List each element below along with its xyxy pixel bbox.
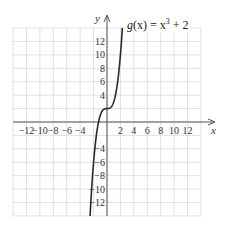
- y-tick-label: −6: [94, 157, 105, 168]
- function-rhs: = x3 + 2: [147, 18, 189, 32]
- function-rhs-tail: + 2: [170, 18, 189, 32]
- y-tick-label: −8: [94, 170, 105, 181]
- y-tick-label: 12: [95, 36, 105, 47]
- y-tick-label: 8: [100, 63, 105, 74]
- function-rhs-base: = x: [147, 18, 166, 32]
- x-tick-label: −10: [32, 125, 48, 136]
- x-tick-label: 2: [118, 125, 123, 136]
- function-label: g(x) = x3 + 2: [126, 17, 190, 33]
- x-tick-label: −8: [48, 125, 59, 136]
- axes: [13, 15, 215, 216]
- y-tick-label: 4: [100, 90, 105, 101]
- x-axis-label: x: [210, 124, 216, 136]
- x-tick-label: 12: [183, 125, 193, 136]
- x-tick-label: −6: [61, 125, 72, 136]
- x-tick-label: −4: [75, 125, 86, 136]
- y-tick-label: 10: [95, 49, 105, 60]
- function-graph: −12−10−8−6−4246810121210864−4−6−8−10−12 …: [0, 0, 228, 231]
- x-tick-label: 4: [131, 125, 136, 136]
- function-arg: (x): [133, 18, 147, 32]
- y-tick-label: 6: [100, 76, 105, 87]
- x-tick-label: 10: [169, 125, 179, 136]
- y-axis-label: y: [94, 12, 100, 24]
- x-tick-label: 8: [158, 125, 163, 136]
- x-tick-label: 6: [145, 125, 150, 136]
